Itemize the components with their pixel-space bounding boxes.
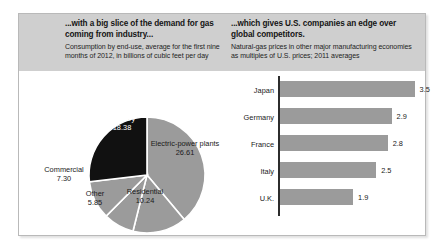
pie-label-industry-value: 18.38 (91, 123, 153, 132)
bar-row: Japan3.5 (224, 78, 425, 104)
bar-fill (280, 81, 415, 97)
right-panel-header: ...which gives U.S. companies an edge ov… (231, 19, 416, 60)
pie-label-residential: Residential 10.24 (117, 187, 173, 205)
charts-area: Industry 18.38 Electric-power plants 26.… (19, 71, 425, 235)
bar-category-label: Germany (224, 113, 274, 122)
bar-value-label: 3.5 (420, 85, 430, 94)
bar-value-label: 2.9 (397, 112, 407, 121)
bar-value-label: 2.8 (393, 139, 403, 148)
left-panel-subtitle: Consumption by end-use, average for the … (65, 42, 225, 60)
pie-label-other-name: Other (86, 189, 104, 198)
bar-row: Germany2.9 (224, 105, 425, 131)
bar-row: U.K.1.9 (224, 186, 425, 212)
pie-label-industry-name: Industry (109, 114, 135, 123)
bar-row: Italy2.5 (224, 159, 425, 185)
pie-label-other: Other 5.85 (75, 189, 115, 207)
right-panel-title: ...which gives U.S. companies an edge ov… (231, 19, 416, 40)
bar-category-label: Italy (224, 167, 274, 176)
pie-chart: Industry 18.38 Electric-power plants 26.… (19, 71, 224, 237)
pie-label-commercial: Commercial 7.30 (33, 165, 95, 183)
bar-category-label: Japan (224, 86, 274, 95)
bar-value-label: 2.5 (381, 166, 391, 175)
infographic-frame: ...with a big slice of the demand for ga… (18, 13, 426, 236)
bar-fill (280, 189, 353, 205)
header-band: ...with a big slice of the demand for ga… (19, 14, 425, 71)
pie-label-commercial-name: Commercial (44, 165, 83, 174)
bar-value-label: 1.9 (358, 193, 368, 202)
left-panel-title: ...with a big slice of the demand for ga… (65, 19, 225, 40)
bar-fill (280, 135, 388, 151)
pie-label-other-value: 5.85 (75, 198, 115, 207)
bar-category-label: U.K. (224, 194, 274, 203)
bar-category-label: France (224, 140, 274, 149)
pie-label-electric-power-plants: Electric-power plants 26.61 (147, 139, 223, 157)
bar-fill (280, 162, 376, 178)
left-panel-header: ...with a big slice of the demand for ga… (65, 19, 225, 60)
pie-label-electric-power-plants-name: Electric-power plants (151, 139, 220, 148)
bar-fill (280, 108, 392, 124)
pie-label-residential-name: Residential (127, 187, 164, 196)
pie-label-residential-value: 10.24 (117, 196, 173, 205)
right-panel-subtitle: Natural-gas prices in other major manufa… (231, 42, 416, 60)
pie-label-commercial-value: 7.30 (33, 174, 95, 183)
bar-chart: Japan3.5Germany2.9France2.8Italy2.5U.K.1… (224, 71, 425, 235)
bar-row: France2.8 (224, 132, 425, 158)
pie-label-electric-power-plants-value: 26.61 (147, 148, 223, 157)
pie-label-industry: Industry 18.38 (91, 114, 153, 132)
